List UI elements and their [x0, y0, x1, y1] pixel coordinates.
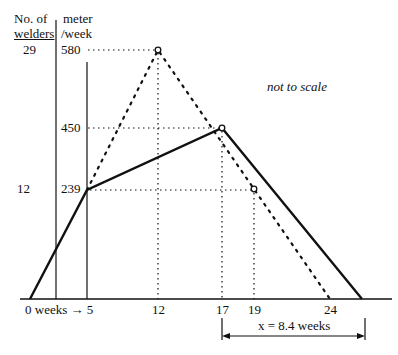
x-tick-19: 19 — [248, 303, 261, 317]
not-to-scale-note: not to scale — [267, 80, 327, 94]
peak-marker — [155, 47, 161, 53]
x-tick-17: 17 — [216, 303, 229, 317]
y-tick-239: 239 — [61, 182, 81, 196]
actual-curve — [30, 128, 362, 299]
dimension-label: x = 8.4 weeks — [258, 319, 330, 333]
x-tick-24: 24 — [324, 303, 337, 317]
guide-lines — [88, 50, 254, 299]
x-tick-12: 12 — [152, 303, 165, 317]
week19-marker — [251, 186, 257, 192]
welders-tick-12: 12 — [17, 182, 30, 196]
welders-header-line2: welders — [14, 27, 54, 41]
y-tick-450: 450 — [61, 121, 81, 135]
meter-header-line1: meter — [63, 12, 93, 26]
x-tick-0-5: 0 weeks → 5 — [25, 303, 93, 317]
welders-header-line1: No. of — [14, 12, 47, 26]
welders-tick-29: 29 — [23, 43, 36, 57]
actual-peak-marker — [219, 125, 225, 131]
meter-header-line2: /week — [61, 27, 92, 41]
y-tick-580: 580 — [61, 43, 81, 57]
